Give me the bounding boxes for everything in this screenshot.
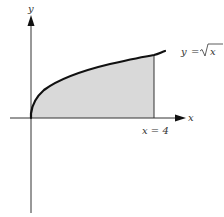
y-axis-arrow-icon — [28, 15, 35, 26]
boundary-label: x = 4 — [142, 125, 169, 136]
curve-label-x: x — [210, 46, 216, 57]
x-axis-arrow-icon — [175, 115, 186, 122]
x-axis-label: x — [188, 112, 194, 123]
diagram-canvas: y x y = x x = 4 — [0, 0, 224, 217]
y-axis-label: y — [27, 3, 34, 14]
curve-label-y: y — [180, 46, 187, 57]
curve-label-eq: = — [191, 46, 199, 57]
